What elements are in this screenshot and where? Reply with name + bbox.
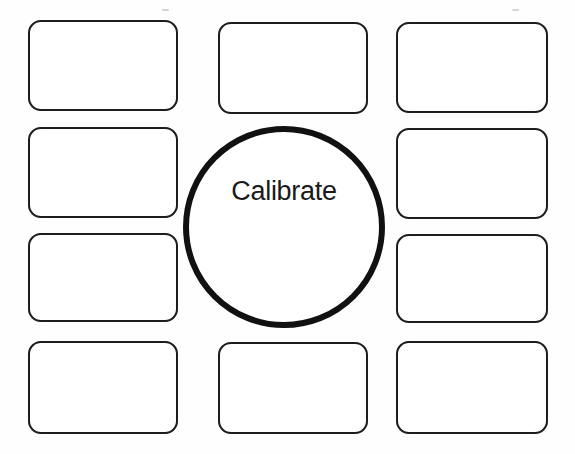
scan-artifact-1 xyxy=(162,9,169,11)
box-right-2[interactable] xyxy=(396,128,548,219)
center-oval[interactable]: Calibrate xyxy=(183,126,385,328)
box-center-1[interactable] xyxy=(218,22,368,114)
box-right-3[interactable] xyxy=(396,234,548,323)
box-left-4[interactable] xyxy=(28,341,178,434)
box-left-3[interactable] xyxy=(28,233,178,322)
scan-artifact-2 xyxy=(512,9,519,11)
box-left-1[interactable] xyxy=(28,20,178,111)
box-right-4[interactable] xyxy=(396,341,548,434)
center-oval-label: Calibrate xyxy=(189,178,379,205)
box-right-1[interactable] xyxy=(396,22,548,113)
box-center-4[interactable] xyxy=(218,342,368,434)
worksheet-canvas: Calibrate xyxy=(0,0,575,454)
box-left-2[interactable] xyxy=(28,127,178,218)
